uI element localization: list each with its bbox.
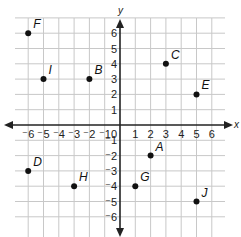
data-points: FIBCEDHAGJ	[25, 17, 210, 204]
point-label: B	[94, 63, 102, 77]
y-axis-arrow-up-icon	[116, 19, 124, 28]
x-tick-label: ⁻5	[37, 128, 49, 140]
point-marker-icon	[194, 91, 200, 97]
y-tick-label: 6	[111, 27, 117, 39]
point-label: A	[155, 140, 164, 154]
y-tick-label: 2	[111, 88, 117, 100]
y-tick-label: ⁻6	[105, 211, 117, 223]
point-label: C	[171, 48, 180, 62]
x-tick-label: 6	[209, 128, 215, 140]
point-label: I	[49, 63, 53, 77]
y-tick-label: 5	[111, 43, 117, 55]
x-axis-arrow-left-icon	[4, 121, 13, 129]
x-tick-label: 3	[163, 128, 169, 140]
coordinate-plane: x y ⁻6⁻5⁻4⁻3⁻2⁻10123456654321⁻1⁻2⁻3⁻4⁻5⁻…	[0, 0, 241, 237]
x-tick-label: 1	[132, 128, 138, 140]
x-tick-label: 2	[148, 128, 154, 140]
axes: x y	[4, 5, 240, 237]
x-tick-label: 5	[193, 128, 199, 140]
point-marker-icon	[163, 61, 169, 67]
x-tick-label: ⁻3	[68, 128, 80, 140]
point-marker-icon	[132, 183, 138, 189]
point-label: E	[202, 78, 211, 92]
point-marker-icon	[41, 76, 47, 82]
y-tick-label: 3	[111, 73, 117, 85]
x-axis-label: x	[233, 119, 240, 130]
point-label: H	[79, 170, 88, 184]
point-label: D	[33, 155, 42, 169]
point-marker-icon	[25, 30, 31, 36]
point-label: J	[201, 186, 209, 200]
y-axis-arrow-down-icon	[116, 228, 124, 237]
y-tick-label: 4	[111, 58, 117, 70]
y-tick-label: ⁻3	[105, 165, 117, 177]
y-tick-label: 1	[111, 104, 117, 116]
point-marker-icon	[194, 199, 200, 205]
x-tick-label: 4	[178, 128, 184, 140]
x-tick-label: ⁻6	[22, 128, 34, 140]
y-tick-label: ⁻4	[105, 180, 117, 192]
point-label: F	[33, 17, 41, 31]
x-axis-arrow-right-icon	[224, 121, 233, 129]
y-tick-label: ⁻2	[105, 150, 117, 162]
y-tick-label: ⁻5	[105, 196, 117, 208]
point-marker-icon	[148, 153, 154, 159]
point-marker-icon	[71, 183, 77, 189]
x-tick-label: ⁻4	[53, 128, 65, 140]
point-marker-icon	[86, 76, 92, 82]
y-tick-label: ⁻1	[105, 134, 117, 146]
y-axis-label: y	[117, 5, 124, 16]
point-label: G	[140, 170, 149, 184]
x-tick-label: ⁻2	[83, 128, 95, 140]
point-marker-icon	[25, 168, 31, 174]
